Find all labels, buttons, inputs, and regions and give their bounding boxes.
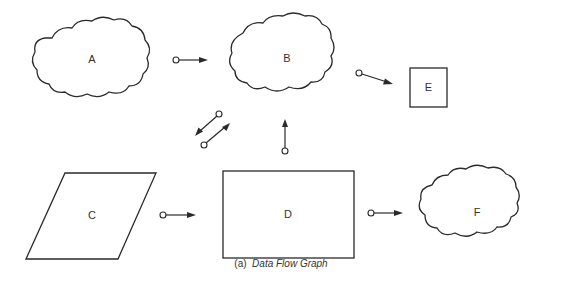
figure-caption: (a) Data Flow Graph [0, 258, 562, 269]
node-b-label: B [283, 52, 290, 64]
node-b: B [230, 13, 334, 91]
node-d: D [223, 171, 354, 258]
node-d-label: D [284, 208, 292, 220]
edge-d-to-f [368, 210, 403, 216]
edge-d-to-b [282, 119, 288, 154]
node-f-label: F [474, 206, 481, 218]
node-f: F [419, 165, 519, 236]
node-e: E [410, 68, 447, 107]
node-c: C [26, 173, 156, 259]
edge-a-to-b [173, 57, 208, 63]
data-flow-graph: A B E C D F [0, 0, 562, 299]
edge-c-to-d [160, 212, 196, 218]
node-a-label: A [88, 53, 96, 65]
node-e-label: E [425, 81, 432, 93]
node-a: A [32, 17, 149, 96]
caption-title: Data Flow Graph [252, 258, 328, 269]
caption-prefix: (a) [234, 258, 246, 269]
node-c-label: C [88, 209, 96, 221]
edge-b-to-e [356, 70, 393, 85]
